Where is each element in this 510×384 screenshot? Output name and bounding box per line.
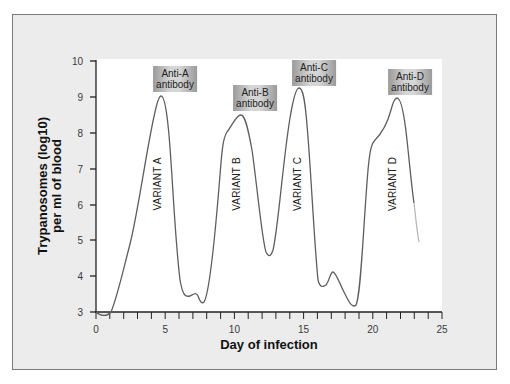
chart-svg: 3 4 5 6 7 8 9 10 0 5 10 15 20 25 <box>0 0 510 384</box>
x-tick-labels: 0 5 10 15 20 25 <box>93 324 448 335</box>
y-tick-7: 7 <box>77 164 83 175</box>
y-axis-title: Trypanosomes (log10) per ml of blood <box>36 117 64 255</box>
y-tick-8: 8 <box>77 128 83 139</box>
x-tick-10: 10 <box>229 324 241 335</box>
y-tick-9: 9 <box>77 92 83 103</box>
parasitemia-curve-tail <box>414 203 419 242</box>
variant-a-label: VARIANT A <box>152 157 163 210</box>
anti-a-line2: antibody <box>156 79 194 90</box>
y-tick-4: 4 <box>77 271 83 282</box>
y-axis-title-line1: Trypanosomes (log10) <box>36 117 50 255</box>
y-tick-10: 10 <box>72 56 84 67</box>
x-tick-0: 0 <box>93 324 99 335</box>
anti-d-line2: antibody <box>391 82 429 93</box>
anti-c-antibody-label: Anti-C antibody <box>292 60 336 86</box>
anti-c-line2: antibody <box>295 73 333 84</box>
y-tick-3: 3 <box>77 307 83 318</box>
y-tick-5: 5 <box>77 235 83 246</box>
y-axis-title-line2: per ml of blood <box>50 117 64 255</box>
variant-d-label: VARIANT D <box>387 157 398 211</box>
anti-a-antibody-label: Anti-A antibody <box>153 66 197 92</box>
anti-d-antibody-label: Anti-D antibody <box>388 69 432 95</box>
anti-c-line1: Anti-C <box>295 62 333 73</box>
anti-b-line2: antibody <box>236 98 274 109</box>
anti-a-line1: Anti-A <box>156 68 194 79</box>
variant-b-label: VARIANT B <box>231 157 242 211</box>
x-tick-20: 20 <box>367 324 379 335</box>
y-tick-labels: 3 4 5 6 7 8 9 10 <box>72 56 84 318</box>
variant-c-label: VARIANT C <box>292 157 303 211</box>
anti-d-line1: Anti-D <box>391 71 429 82</box>
y-tick-6: 6 <box>77 200 83 211</box>
y-axis <box>90 60 96 313</box>
anti-b-antibody-label: Anti-B antibody <box>233 85 277 111</box>
x-tick-15: 15 <box>298 324 310 335</box>
x-tick-25: 25 <box>436 324 448 335</box>
x-axis <box>95 312 442 319</box>
x-axis-title: Day of infection <box>96 337 442 352</box>
anti-b-line1: Anti-B <box>236 87 274 98</box>
x-tick-5: 5 <box>162 324 168 335</box>
parasitemia-curve <box>96 88 414 315</box>
